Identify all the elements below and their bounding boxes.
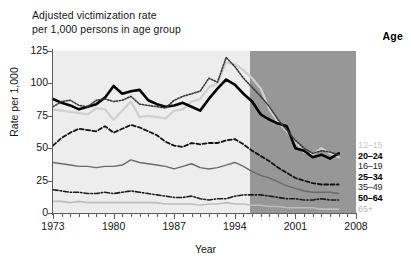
- x-tick-label: 2001: [284, 220, 307, 232]
- x-tick-label: 1987: [163, 220, 186, 232]
- x-axis-title: Year: [0, 243, 411, 255]
- x-tick-minor: [321, 214, 322, 217]
- x-tick-minor: [278, 214, 279, 217]
- y-tick: [48, 148, 53, 149]
- x-tick-minor: [148, 214, 149, 217]
- legend-item-35-49[interactable]: 35–49: [358, 182, 411, 193]
- series-lines: [53, 51, 356, 213]
- legend: 12–1520–2416–1925–3435–4950–6465+: [358, 140, 411, 214]
- y-tick: [48, 83, 53, 84]
- series-line-25-34: [53, 125, 339, 185]
- legend-item-20-24[interactable]: 20–24: [358, 151, 411, 162]
- x-tick-major: [356, 214, 357, 219]
- x-tick-minor: [122, 214, 123, 217]
- y-tick: [48, 116, 53, 117]
- x-tick-label: 2008: [344, 220, 367, 232]
- y-axis-line: [52, 49, 53, 215]
- x-tick-minor: [226, 214, 227, 217]
- x-tick-minor: [183, 214, 184, 217]
- x-tick-minor: [330, 214, 331, 217]
- y-tick: [48, 181, 53, 182]
- chart-title: Adjusted victimization rate per 1,000 pe…: [32, 8, 181, 36]
- y-tick-label: 25: [18, 175, 48, 185]
- y-axis-title: Rate per 1,000: [8, 42, 20, 162]
- y-tick-label: 100: [18, 77, 48, 87]
- x-tick-minor: [79, 214, 80, 217]
- legend-item-16-19[interactable]: 16–19: [358, 161, 411, 172]
- series-line-16-19: [53, 57, 339, 154]
- x-tick-major: [53, 214, 54, 219]
- x-axis-line: [52, 213, 357, 214]
- x-tick-label: 1980: [102, 220, 125, 232]
- x-tick-minor: [70, 214, 71, 217]
- y-tick-label: 50: [18, 142, 48, 152]
- legend-item-50-64[interactable]: 50–64: [358, 193, 411, 204]
- x-tick-minor: [166, 214, 167, 217]
- x-tick-minor: [96, 214, 97, 217]
- x-tick-minor: [252, 214, 253, 217]
- legend-item-25-34[interactable]: 25–34: [358, 172, 411, 183]
- x-tick-major: [174, 214, 175, 219]
- legend-item-65-[interactable]: 65+: [358, 204, 411, 215]
- x-tick-minor: [131, 214, 132, 217]
- x-tick-minor: [140, 214, 141, 217]
- x-tick-minor: [304, 214, 305, 217]
- x-tick-major: [114, 214, 115, 219]
- x-tick-minor: [269, 214, 270, 217]
- x-tick-minor: [339, 214, 340, 217]
- legend-title: Age: [383, 30, 403, 42]
- y-tick-label: 125: [18, 45, 48, 55]
- legend-item-12-15[interactable]: 12–15: [358, 140, 411, 151]
- x-tick-minor: [192, 214, 193, 217]
- x-tick-minor: [200, 214, 201, 217]
- x-tick-major: [235, 214, 236, 219]
- x-tick-minor: [313, 214, 314, 217]
- x-tick-minor: [217, 214, 218, 217]
- series-line-65-: [53, 201, 339, 209]
- x-tick-minor: [243, 214, 244, 217]
- y-tick-label: 0: [18, 207, 48, 217]
- chart-root: Adjusted victimization rate per 1,000 pe…: [0, 0, 411, 267]
- x-tick-major: [295, 214, 296, 219]
- series-line-20-24: [53, 80, 339, 159]
- chart-title-line-2: per 1,000 persons in age group: [32, 22, 181, 36]
- x-tick-minor: [88, 214, 89, 217]
- x-tick-minor: [157, 214, 158, 217]
- y-tick: [48, 51, 53, 52]
- series-line-35-49: [53, 160, 339, 194]
- plot-area: [53, 51, 356, 213]
- x-tick-label: 1994: [223, 220, 246, 232]
- x-tick-minor: [209, 214, 210, 217]
- x-tick-minor: [62, 214, 63, 217]
- y-tick-label: 75: [18, 110, 48, 120]
- x-tick-minor: [347, 214, 348, 217]
- x-tick-minor: [105, 214, 106, 217]
- x-tick-minor: [287, 214, 288, 217]
- chart-title-line-1: Adjusted victimization rate: [32, 8, 181, 22]
- series-line-50-64: [53, 190, 339, 200]
- x-tick-minor: [261, 214, 262, 217]
- x-tick-label: 1973: [41, 220, 64, 232]
